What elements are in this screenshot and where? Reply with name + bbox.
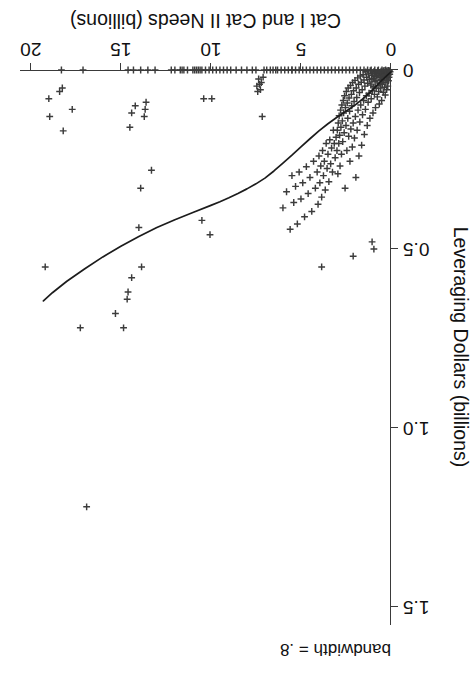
figure-canvas: 05101520 00.51.01.5 Cat I and Cat II Nee… — [0, 0, 475, 684]
scatter-svg — [20, 70, 391, 625]
y-axis-title: Leveraging Dollars (billions) — [449, 70, 471, 625]
x-tick-label: 20 — [20, 38, 41, 60]
x-tick-label: 5 — [296, 38, 307, 60]
x-tick-label: 0 — [386, 38, 397, 60]
y-tick-label: 0 — [403, 59, 414, 81]
x-tick-mark — [210, 63, 211, 70]
x-tick-label: 15 — [110, 38, 131, 60]
x-tick-mark — [30, 63, 31, 70]
x-axis-title: Cat I and Cat II Needs (billions) — [20, 9, 391, 32]
bandwidth-note: bandwidth = .8 — [280, 639, 391, 659]
marker-group — [42, 67, 394, 511]
y-tick-mark — [391, 69, 398, 70]
y-tick-mark — [391, 248, 398, 249]
x-tick-label: 10 — [200, 38, 221, 60]
plot-area — [20, 70, 391, 625]
y-tick-label: 1.0 — [403, 417, 429, 439]
chart-page: 05101520 00.51.01.5 Cat I and Cat II Nee… — [0, 0, 475, 684]
x-tick-mark — [120, 63, 121, 70]
y-tick-mark — [391, 606, 398, 607]
y-tick-label: 1.5 — [403, 596, 429, 618]
x-tick-mark — [300, 63, 301, 70]
lowess-fit-line — [43, 72, 391, 301]
y-axis-title-text: Leveraging Dollars (billions) — [449, 227, 472, 468]
y-tick-mark — [391, 427, 398, 428]
y-tick-label: 0.5 — [403, 238, 429, 260]
